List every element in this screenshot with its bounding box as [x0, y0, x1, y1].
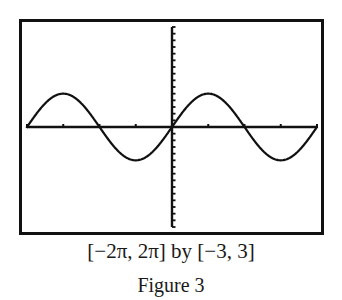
- figure-label: Figure 3: [0, 273, 342, 297]
- window-caption: [−2π, 2π] by [−3, 3]: [0, 239, 342, 263]
